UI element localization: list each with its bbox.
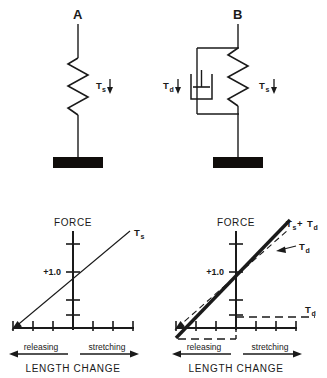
chart-a-ts-label-sub: s (141, 233, 145, 240)
chart-b-td-offset-label-sub: d (312, 310, 316, 317)
chart-a-releasing-label: releasing (24, 342, 59, 352)
tension-symbol-s-b: T (259, 80, 265, 91)
chart-a-y-value-label: +1.0 (43, 267, 61, 277)
ground-block-a (53, 157, 103, 168)
tension-symbol-d: T (163, 80, 169, 91)
chart-b-y-value-label: +1.0 (206, 267, 224, 277)
chart-b-td-offset-label: T (305, 304, 311, 315)
chart-b-label-t2: T (307, 218, 313, 229)
ground-block-b (213, 157, 263, 168)
chart-b-label-t1: T (286, 218, 292, 229)
chart-b-stretching-label: stretching (252, 342, 289, 352)
figure-background (0, 0, 327, 378)
figure-svg: A T s B (0, 0, 327, 378)
figure-root: A T s B (0, 0, 327, 378)
chart-b-releasing-label: releasing (187, 342, 222, 352)
chart-b-label-plus: + (297, 218, 303, 229)
chart-b-td-pointer-label-sub: d (306, 247, 310, 254)
chart-b-label-t2-sub: d (314, 224, 318, 231)
chart-a-force-label: FORCE (54, 217, 92, 228)
chart-b-force-label: FORCE (217, 217, 255, 228)
chart-b-x-axis-title: LENGTH CHANGE (188, 363, 283, 374)
chart-a-ts-label: T (134, 227, 140, 238)
panel-b-letter: B (233, 7, 243, 22)
tension-subscript-a: s (102, 86, 106, 93)
chart-a-x-axis-title: LENGTH CHANGE (25, 363, 120, 374)
panel-a-letter: A (73, 7, 83, 22)
chart-b-label-t1-sub: s (293, 224, 297, 231)
chart-b-td-pointer-label: T (299, 241, 305, 252)
tension-subscript-s-b: s (266, 86, 270, 93)
chart-a-stretching-label: stretching (89, 342, 126, 352)
tension-subscript-d: d (170, 86, 174, 93)
